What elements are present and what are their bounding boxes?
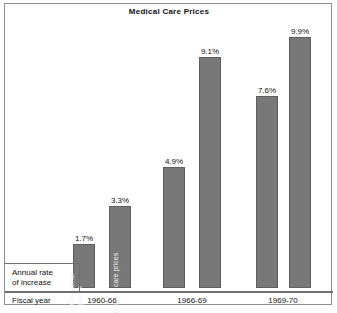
bar-medical-1960-66: Medical care prices [109,206,131,288]
y-axis-label-line1: Annual rate [12,268,53,278]
chart-frame: Medical Care Prices Consumer prices 1.7%… [4,3,332,305]
bar-medical-1966-69 [199,57,221,288]
bar-value-4: 9.1% [199,47,221,56]
bar-value-6: 9.9% [289,27,311,36]
x-tick-label-1960-66: 1960-66 [62,296,142,305]
y-axis-label-line2: of increase [12,278,53,288]
x-tick-label-1969-70: 1969-70 [243,296,323,305]
x-tick-label-1966-69: 1966-69 [152,296,232,305]
bar-medical-1969-70 [289,37,311,288]
rate-label-divider [5,263,80,264]
rate-label-divider-vertical [79,263,80,291]
bar-consumer-1969-70 [256,96,278,288]
bar-value-3: 4.9% [163,157,185,166]
y-axis-label: Annual rate of increase [12,268,53,288]
bar-consumer-1966-69 [163,167,185,288]
x-axis-label: Fiscal year [12,296,51,305]
bar-value-5: 7.6% [256,86,278,95]
x-axis-baseline [5,291,333,293]
bar-value-1: 1.7% [73,234,95,243]
bar-value-2: 3.3% [109,196,131,205]
plot-area: Consumer prices 1.7% Medical care prices… [5,4,333,288]
bar-consumer-1960-66: Consumer prices [73,244,95,288]
